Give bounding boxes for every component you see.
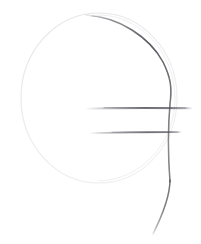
dark-arc-stroke — [86, 15, 171, 182]
faint-circle-outline — [21, 13, 177, 183]
faint-circle-secondary-pass — [99, 15, 175, 181]
sketch-canvas — [0, 0, 201, 244]
descending-tail-stroke — [153, 180, 170, 234]
sketch-drawing — [0, 0, 201, 244]
dark-arc-overdraw — [92, 16, 171, 180]
